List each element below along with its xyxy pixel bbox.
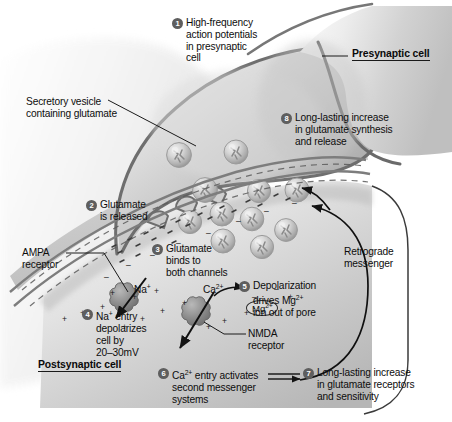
step-text-1: High-frequency action potentials in pres…: [186, 17, 257, 64]
svg-text:–: –: [104, 272, 109, 282]
step-text-2: Glutamate is released: [100, 199, 148, 223]
svg-text:–: –: [126, 260, 131, 270]
step-bullet-1: 1: [172, 18, 183, 29]
vesicle: [275, 219, 298, 242]
step-text-3: Glutamate binds to both channels: [166, 243, 228, 278]
postsynaptic-cell-header: Postsynaptic cell: [38, 359, 121, 372]
svg-text:+: +: [160, 306, 165, 316]
step-text-5: Depolarizationdrives Mg2+ion out of pore: [253, 280, 316, 319]
svg-text:–: –: [292, 198, 297, 208]
secretory-vesicle-label: Secretory vesicle containing glutamate: [26, 96, 117, 119]
step-bullet-4: 4: [82, 309, 93, 320]
vesicle: [240, 207, 264, 231]
presynaptic-cell-header: Presynaptic cell: [352, 48, 430, 61]
step-bullet-8: 8: [281, 113, 292, 124]
svg-text:+: +: [222, 316, 227, 326]
figure-canvas: –– –– –– –– ++ ++ ++ ++ ++ ++ ++ + ––: [0, 0, 452, 422]
vesicle: [167, 143, 192, 168]
nmda-receptor-label: NMDA receptor: [248, 328, 284, 351]
step-bullet-2: 2: [86, 200, 97, 211]
calcium-ion-label: Ca2+: [203, 283, 223, 295]
step-text-4: Na+ entrydepolarizescell by20–30mV: [96, 308, 146, 359]
vesicle: [210, 202, 234, 226]
vesicle: [224, 140, 248, 164]
sodium-ion-label: Na+: [134, 283, 151, 295]
svg-text:–: –: [206, 228, 211, 238]
ampa-receptor-label: AMPA receptor: [22, 247, 58, 270]
step-text-6: Ca2+ entry activatessecond messengersyst…: [172, 367, 258, 406]
step-bullet-5: 5: [239, 281, 250, 292]
vesicle: [250, 235, 273, 258]
svg-text:+: +: [110, 288, 115, 298]
step-bullet-3: 3: [152, 244, 163, 255]
vesicle: [178, 210, 201, 233]
svg-text:–: –: [264, 206, 269, 216]
svg-text:+: +: [182, 298, 187, 308]
svg-text:+: +: [154, 286, 159, 296]
retrograde-messenger-label: Retrograde messenger: [344, 246, 393, 269]
step-text-8: Long-lasting increase in glutamate synth…: [295, 112, 393, 147]
svg-text:–: –: [236, 216, 241, 226]
step-bullet-6: 6: [158, 368, 169, 379]
step-bullet-7: 7: [303, 368, 314, 379]
svg-text:+: +: [62, 314, 67, 324]
step-text-7: Long-lasting increase in glutamate recep…: [317, 367, 415, 402]
